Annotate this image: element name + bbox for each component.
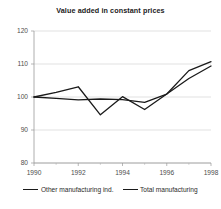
x-axis-tick-label: 1996 bbox=[159, 169, 174, 176]
legend-entry-total-manufacturing: Total manufacturing bbox=[123, 186, 198, 193]
x-axis-tick-label: 1990 bbox=[27, 169, 42, 176]
x-axis-tick-label: 1994 bbox=[115, 169, 130, 176]
y-axis-tick-label: 110 bbox=[17, 60, 28, 67]
y-axis-tick-label: 120 bbox=[17, 27, 28, 34]
x-axis-tick-label: 1992 bbox=[71, 169, 86, 176]
legend-entry-other-manufacturing: Other manufacturing ind. bbox=[23, 186, 113, 193]
plot-area: 809010011012019901992199419961998 bbox=[0, 0, 221, 209]
legend-label: Other manufacturing ind. bbox=[41, 186, 114, 193]
data-series-line bbox=[34, 66, 211, 115]
chart-legend: Other manufacturing ind. Total manufactu… bbox=[0, 186, 221, 193]
chart-figure: Value added in constant prices 809010011… bbox=[0, 0, 221, 209]
y-axis-tick-label: 100 bbox=[17, 93, 28, 100]
x-axis-tick-label: 1998 bbox=[204, 169, 219, 176]
legend-line-icon bbox=[23, 189, 38, 190]
y-axis-tick-label: 90 bbox=[21, 126, 29, 133]
y-axis-tick-label: 80 bbox=[21, 159, 29, 166]
legend-label: Total manufacturing bbox=[140, 186, 198, 193]
legend-line-icon bbox=[123, 189, 138, 190]
